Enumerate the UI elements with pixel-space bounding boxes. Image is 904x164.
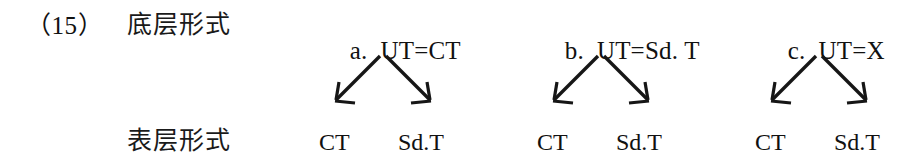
down-right-arrow-icon [604, 56, 649, 103]
derivation-b-arrows [536, 52, 666, 112]
underlying-form-label: 底层形式 [127, 12, 231, 37]
derivation-c-output-1: CT [755, 130, 786, 154]
derivation-c-arrows [754, 52, 884, 112]
derivation-c-output-2: Sd.T [834, 130, 880, 154]
down-right-arrow-icon [822, 56, 867, 103]
derivation-a-arrows [318, 52, 448, 112]
down-left-arrow-icon [335, 56, 380, 103]
example-figure: （15） 底层形式 表层形式 a. UT=CT CT Sd.T b. UT=Sd… [0, 0, 904, 164]
derivation-b-output-1: CT [537, 130, 568, 154]
down-left-arrow-icon [553, 56, 598, 103]
derivation-a-output-2: Sd.T [398, 130, 444, 154]
example-number: （15） [26, 13, 103, 38]
derivation-a-output-1: CT [319, 130, 350, 154]
derivation-b-output-2: Sd.T [616, 130, 662, 154]
down-left-arrow-icon [771, 56, 816, 103]
down-right-arrow-icon [386, 56, 431, 103]
surface-form-label: 表层形式 [127, 128, 231, 153]
